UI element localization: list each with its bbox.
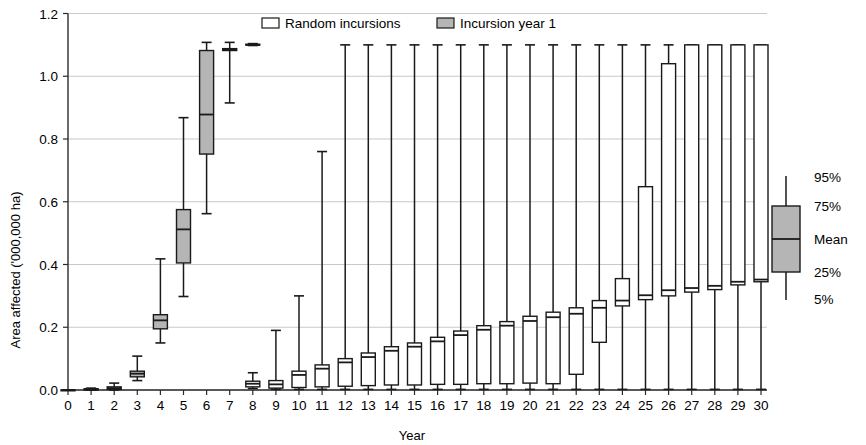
boxplot-random-0 (246, 373, 260, 389)
y-tick-label: 0.8 (39, 132, 58, 147)
box-body (546, 312, 560, 384)
x-tick-label: 7 (226, 398, 234, 413)
key-label-0: 95% (814, 170, 841, 185)
boxplot-chart: 0.00.20.40.60.81.01.2 012345678910111213… (0, 0, 866, 445)
x-tick-label: 9 (272, 398, 280, 413)
boxplot-random-2 (292, 296, 306, 389)
x-tick-label: 15 (407, 398, 422, 413)
boxplot-random-6 (384, 45, 398, 389)
box-body (615, 279, 629, 306)
y-tick-label: 1.0 (39, 69, 58, 84)
boxplot-random-22 (754, 45, 768, 389)
x-tick-label: 10 (291, 398, 306, 413)
boxplot-random-7 (408, 45, 422, 389)
boxplot-random-4 (338, 45, 352, 389)
x-tick-label: 14 (384, 398, 400, 413)
key-label-2: Mean (814, 232, 848, 247)
x-tick-label: 30 (753, 398, 768, 413)
x-tick-label: 6 (203, 398, 211, 413)
boxplot-year1-0 (61, 390, 75, 391)
x-tick-label: 25 (638, 398, 653, 413)
x-tick-label: 23 (592, 398, 607, 413)
boxplot-key: 95%75%Mean25%5% (772, 170, 848, 307)
box-body (754, 45, 768, 282)
box-body (292, 371, 306, 387)
box-body (569, 308, 583, 375)
chart-canvas: 0.00.20.40.60.81.01.2 012345678910111213… (0, 0, 866, 445)
x-tick-label: 22 (569, 398, 584, 413)
box-body (454, 331, 468, 384)
x-tick-label: 2 (110, 398, 118, 413)
boxplot-random-15 (592, 45, 606, 389)
series-incursion-year-1 (61, 42, 260, 390)
key-label-4: 5% (814, 292, 834, 307)
box-body (477, 326, 491, 384)
y-tick-label: 0.0 (39, 383, 58, 398)
box-body (153, 315, 167, 329)
box-body (384, 347, 398, 385)
box-body (408, 343, 422, 385)
x-tick-label: 4 (157, 398, 165, 413)
x-tick-label: 17 (453, 398, 468, 413)
boxplot-random-19 (685, 45, 699, 389)
box-body (200, 51, 214, 155)
series-random-incursions (246, 45, 768, 389)
legend-swatch-1 (437, 18, 454, 28)
boxplot-random-14 (569, 45, 583, 389)
boxplot-random-1 (269, 330, 283, 389)
x-tick-label: 19 (499, 398, 514, 413)
x-tick-label: 24 (615, 398, 631, 413)
legend-swatch-0 (262, 18, 279, 28)
boxplot-random-20 (708, 45, 722, 389)
boxplot-random-18 (662, 45, 676, 389)
box-body (523, 316, 537, 383)
boxplot-random-5 (361, 45, 375, 389)
x-tick-label: 28 (707, 398, 722, 413)
x-tick-label: 13 (361, 398, 376, 413)
box-body (639, 187, 653, 300)
boxplot-random-10 (477, 45, 491, 389)
y-tick-label: 1.2 (39, 7, 58, 22)
boxplot-year1-4 (153, 259, 167, 343)
legend-label-0: Random incursions (285, 16, 401, 31)
boxplot-random-11 (500, 45, 514, 389)
x-tick-label: 8 (249, 398, 257, 413)
box-body (177, 210, 191, 263)
key-label-1: 75% (814, 199, 841, 214)
boxplot-random-3 (315, 152, 329, 390)
boxplot-year1-2 (107, 383, 121, 390)
x-tick-label: 3 (134, 398, 142, 413)
x-tick-label: 16 (430, 398, 445, 413)
boxplot-random-8 (431, 45, 445, 389)
x-tick-label: 12 (338, 398, 353, 413)
boxplot-random-21 (731, 45, 745, 389)
y-axis-ticks: 0.00.20.40.60.81.01.2 (39, 7, 68, 399)
x-tick-label: 0 (64, 398, 72, 413)
legend-label-1: Incursion year 1 (460, 16, 556, 31)
x-tick-label: 26 (661, 398, 676, 413)
legend: Random incursionsIncursion year 1 (262, 16, 556, 31)
x-tick-label: 18 (476, 398, 491, 413)
boxplot-random-12 (523, 45, 537, 389)
boxplot-year1-1 (84, 388, 98, 390)
x-axis-title: Year (399, 428, 426, 443)
boxplot-year1-3 (130, 356, 144, 380)
box-body (500, 322, 514, 384)
boxplot-year1-7 (223, 42, 237, 103)
x-tick-label: 21 (546, 398, 561, 413)
x-tick-label: 5 (180, 398, 188, 413)
y-tick-label: 0.2 (39, 320, 58, 335)
x-tick-label: 1 (87, 398, 95, 413)
box-body (731, 45, 745, 285)
x-tick-label: 20 (522, 398, 537, 413)
x-axis-ticks: 0123456789101112131415161718192021222324… (64, 390, 768, 413)
box-body (662, 64, 676, 296)
y-tick-label: 0.6 (39, 195, 58, 210)
y-axis-title: Area affected ('000,000 ha) (8, 192, 23, 349)
boxplot-random-17 (639, 45, 653, 389)
boxplot-year1-5 (177, 118, 191, 297)
key-label-3: 25% (814, 265, 841, 280)
boxplot-year1-6 (200, 42, 214, 213)
boxplot-random-16 (615, 45, 629, 389)
boxplot-random-13 (546, 45, 560, 389)
